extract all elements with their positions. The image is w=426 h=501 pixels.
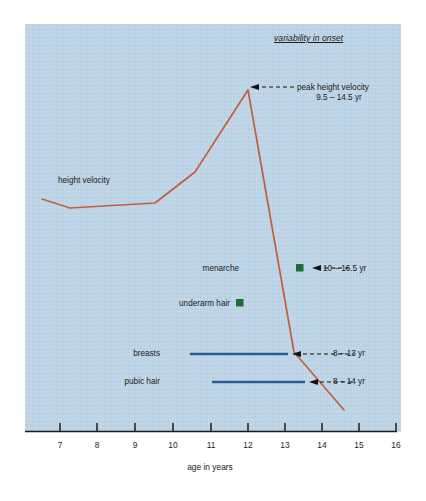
menarche-range: 10 – 16.5 yr [323, 264, 366, 274]
x-axis-tick-label: 10 [161, 440, 185, 450]
x-axis-tick-label: 11 [199, 440, 223, 450]
x-axis-tick-marks [60, 423, 396, 431]
chart-vector-layer [0, 0, 426, 501]
underarm-hair-marker [236, 299, 244, 307]
x-axis-tick-label: 16 [384, 440, 408, 450]
menarche-marker [296, 264, 304, 272]
x-axis-tick-label: 9 [123, 440, 147, 450]
peak-height-velocity-leader [250, 84, 294, 90]
breasts-range: 8 – 13 yr [333, 349, 365, 359]
x-axis-tick-label: 7 [48, 440, 72, 450]
height-velocity-label: height velocity [58, 176, 110, 186]
pubic-hair-label: pubic hair [60, 377, 160, 387]
x-axis-tick-label: 12 [236, 440, 260, 450]
x-axis-tick-label: 14 [310, 440, 334, 450]
legend-title: variability in onset [274, 33, 343, 43]
peak-height-velocity-range: 9.5 – 14.5 yr [297, 93, 381, 103]
x-axis-tick-label: 15 [347, 440, 371, 450]
x-axis-tick-label: 13 [273, 440, 297, 450]
puberty-timeline-figure: variability in onset peak height velocit… [0, 0, 426, 501]
underarm-hair-label: underarm hair [120, 299, 230, 309]
pubic-hair-range: 8 – 14 yr [333, 377, 365, 387]
x-axis-title: age in years [150, 462, 270, 472]
breasts-label: breasts [70, 349, 160, 359]
peak-height-velocity-label: peak height velocity [297, 83, 369, 93]
height-velocity-curve [42, 90, 344, 410]
menarche-label: menarche [183, 264, 239, 274]
x-axis-tick-label: 8 [85, 440, 109, 450]
